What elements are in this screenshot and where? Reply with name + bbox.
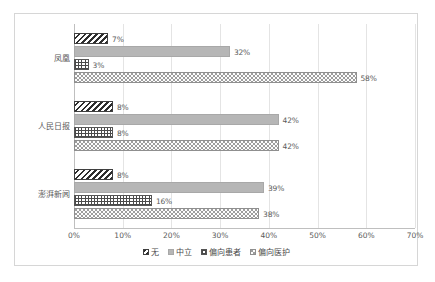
- bar-row: 8%: [74, 101, 415, 112]
- bar-value-label: 42%: [283, 141, 299, 150]
- bar-中立-澎湃新闻[interactable]: [74, 182, 264, 193]
- bar-无-人民日报[interactable]: [74, 101, 113, 112]
- bar-无-凤凰[interactable]: [74, 33, 108, 44]
- legend-swatch-icon: [250, 249, 256, 255]
- x-tick-label: 10%: [114, 231, 131, 240]
- legend-swatch-icon: [201, 249, 207, 255]
- bar-偏向患者-凤凰[interactable]: [74, 59, 89, 70]
- bar-value-label: 58%: [361, 73, 377, 82]
- x-tick-label: 60%: [358, 231, 375, 240]
- legend-label: 无: [151, 246, 159, 257]
- bar-value-label: 7%: [112, 34, 124, 43]
- bar-value-label: 8%: [117, 170, 129, 179]
- x-tick-label: 50%: [309, 231, 326, 240]
- bar-row: 58%: [74, 72, 415, 83]
- bar-value-label: 32%: [234, 47, 250, 56]
- bar-value-label: 16%: [156, 196, 172, 205]
- legend-label: 偏向医护: [258, 246, 290, 257]
- chart-frame: 凤凰人民日报澎湃新闻 7%32%3%58%8%42%8%42%8%39%16%3…: [14, 13, 418, 266]
- x-axis-labels: 0%10%20%30%40%50%60%70%: [74, 230, 415, 244]
- bar-row: 8%: [74, 127, 415, 138]
- bar-row: 42%: [74, 114, 415, 125]
- legend-label: 偏向患者: [209, 246, 241, 257]
- bar-group: 7%32%3%58%: [74, 33, 415, 83]
- x-tick-label: 20%: [163, 231, 180, 240]
- bar-group: 8%39%16%38%: [74, 169, 415, 219]
- category-label-澎湃新闻: 澎湃新闻: [38, 188, 70, 199]
- gridline-70%: [415, 24, 416, 228]
- legend-item-中立[interactable]: 中立: [168, 246, 192, 257]
- legend-item-偏向医护[interactable]: 偏向医护: [250, 246, 290, 257]
- x-tick-label: 70%: [407, 231, 424, 240]
- bar-偏向患者-人民日报[interactable]: [74, 127, 113, 138]
- bar-value-label: 42%: [283, 115, 299, 124]
- bar-row: 32%: [74, 46, 415, 57]
- chart-legend: 无中立偏向患者偏向医护: [15, 246, 417, 257]
- bar-偏向医护-人民日报[interactable]: [74, 140, 279, 151]
- legend-item-偏向患者[interactable]: 偏向患者: [201, 246, 241, 257]
- x-axis-line: [74, 228, 415, 229]
- bar-row: 3%: [74, 59, 415, 70]
- x-tick-label: 30%: [212, 231, 229, 240]
- x-tick-label: 40%: [261, 231, 278, 240]
- bar-value-label: 8%: [117, 128, 129, 137]
- bar-无-澎湃新闻[interactable]: [74, 169, 113, 180]
- bar-row: 16%: [74, 195, 415, 206]
- bar-row: 42%: [74, 140, 415, 151]
- legend-item-无[interactable]: 无: [143, 246, 159, 257]
- bar-偏向医护-澎湃新闻[interactable]: [74, 208, 259, 219]
- bar-row: 39%: [74, 182, 415, 193]
- bar-value-label: 3%: [93, 60, 105, 69]
- bar-value-label: 39%: [268, 183, 284, 192]
- legend-label: 中立: [176, 246, 192, 257]
- bar-偏向患者-澎湃新闻[interactable]: [74, 195, 152, 206]
- bar-中立-凤凰[interactable]: [74, 46, 230, 57]
- y-axis-labels: 凤凰人民日报澎湃新闻: [19, 24, 70, 228]
- plot-area: 7%32%3%58%8%42%8%42%8%39%16%38%: [74, 24, 415, 228]
- legend-swatch-icon: [143, 249, 149, 255]
- bar-value-label: 8%: [117, 102, 129, 111]
- x-tick-label: 0%: [68, 231, 80, 240]
- bar-value-label: 38%: [263, 209, 279, 218]
- bar-group: 8%42%8%42%: [74, 101, 415, 151]
- bar-row: 7%: [74, 33, 415, 44]
- category-label-凤凰: 凤凰: [54, 52, 70, 63]
- bar-偏向医护-凤凰[interactable]: [74, 72, 357, 83]
- category-label-人民日报: 人民日报: [38, 120, 70, 131]
- bar-row: 38%: [74, 208, 415, 219]
- bar-row: 8%: [74, 169, 415, 180]
- bar-中立-人民日报[interactable]: [74, 114, 279, 125]
- legend-swatch-icon: [168, 249, 174, 255]
